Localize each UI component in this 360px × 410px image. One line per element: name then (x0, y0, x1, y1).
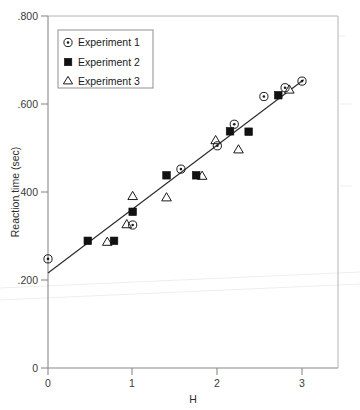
y-tick-label-0: 0 (32, 362, 38, 374)
data-point-experiment-3-1[interactable] (122, 220, 132, 228)
legend-label-experiment-3: Experiment 3 (78, 75, 140, 87)
data-point-experiment-3-6[interactable] (234, 145, 244, 153)
x-axis-title: H (189, 393, 197, 405)
data-point-experiment-1-7[interactable] (298, 77, 306, 85)
y-tick-label-200: .200 (18, 274, 39, 286)
series-experiment-1-markers[interactable] (44, 77, 306, 263)
y-axis-title: Reaction time (sec) (9, 147, 21, 237)
x-tick-label-1: 1 (129, 377, 135, 389)
data-point-experiment-2-6[interactable] (245, 128, 253, 136)
data-point-experiment-2-2[interactable] (129, 208, 137, 216)
data-point-experiment-2-0[interactable] (84, 237, 92, 245)
data-point-experiment-3-2[interactable] (128, 191, 138, 199)
y-tick-label-800: .800 (18, 10, 39, 22)
series-experiment-2-markers[interactable] (84, 91, 282, 244)
data-point-experiment-2-4[interactable] (192, 171, 200, 179)
y-axis (41, 16, 48, 368)
legend[interactable]: Experiment 1 Experiment 2 Experiment 3 (58, 30, 153, 88)
circle-dot-center-icon (67, 41, 70, 44)
legend-label-experiment-2: Experiment 2 (78, 56, 140, 68)
scatter-plot-figure: .800 .600 .400 .200 0 Reaction time (sec… (0, 0, 360, 410)
plot-canvas: .800 .600 .400 .200 0 Reaction time (sec… (0, 0, 360, 410)
x-tick-labels: 0 1 2 3 (45, 377, 305, 389)
data-point-experiment-1-4[interactable] (230, 120, 238, 128)
x-tick-label-3: 3 (299, 377, 305, 389)
scan-artifacts (0, 36, 360, 300)
x-tick-label-2: 2 (214, 377, 220, 389)
y-tick-label-600: .600 (18, 98, 39, 110)
data-point-experiment-2-7[interactable] (274, 91, 282, 99)
data-point-experiment-2-3[interactable] (163, 171, 171, 179)
legend-label-experiment-1: Experiment 1 (78, 36, 140, 48)
data-point-experiment-1-5[interactable] (260, 92, 268, 100)
filled-square-icon (64, 58, 71, 65)
data-point-experiment-3-3[interactable] (162, 193, 172, 201)
x-axis (48, 368, 338, 375)
x-tick-label-0: 0 (45, 377, 51, 389)
data-point-experiment-2-1[interactable] (110, 237, 118, 245)
data-point-experiment-2-5[interactable] (226, 127, 234, 135)
